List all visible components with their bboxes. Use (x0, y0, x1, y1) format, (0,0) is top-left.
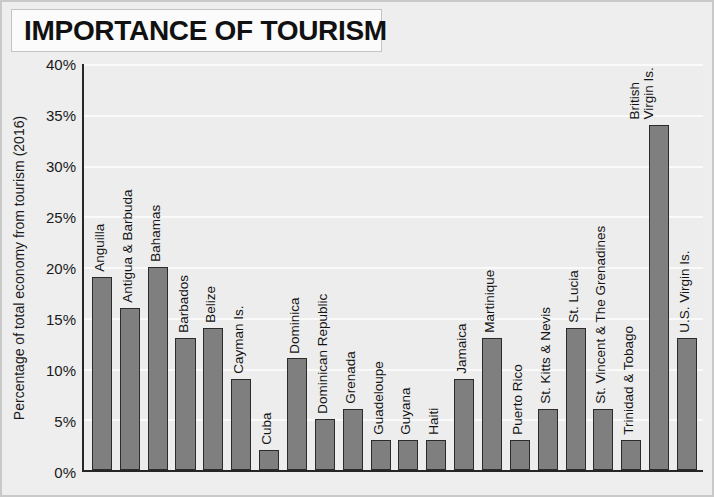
y-axis-tick-25: 25% (46, 209, 76, 226)
bar-label: Guyana (400, 387, 414, 434)
bar[interactable]: U.S. Virgin Is. (677, 338, 697, 470)
bar-label: Jamaica (455, 323, 469, 373)
bar[interactable]: Dominica (287, 358, 307, 470)
y-axis-tick-30: 30% (46, 158, 76, 175)
page-title: IMPORTANCE OF TOURISM (24, 15, 387, 47)
bar-label: Haiti (428, 408, 442, 435)
plot-area: AnguillaAntigua & BarbudaBahamasBarbados… (82, 64, 703, 472)
bar[interactable]: St. Vincent & The Grenadines (593, 409, 613, 470)
bar-label: Martinique (483, 270, 497, 333)
bar[interactable]: Bahamas (148, 267, 168, 470)
bar-label: St. Kitts & Nevis (539, 307, 553, 404)
bar-label: Dominican Republic (316, 294, 330, 414)
chart-page: IMPORTANCE OF TOURISM Percentage of tota… (0, 0, 714, 497)
y-axis-title: Percentage of total economy from tourism… (8, 64, 30, 472)
bar-label: Bahamas (149, 205, 163, 262)
bar-label: Cayman Is. (233, 305, 247, 373)
y-axis-tick-10: 10% (46, 362, 76, 379)
bar[interactable]: Martinique (482, 338, 502, 470)
bar-label: U.S. Virgin Is. (678, 251, 692, 333)
bar[interactable]: Jamaica (454, 379, 474, 470)
bar[interactable]: Grenada (343, 409, 363, 470)
y-axis-tick-labels: 0%5%10%15%20%25%30%35%40% (30, 64, 80, 472)
bar-slot: Trinidad & Tobago (617, 64, 645, 470)
chart-title-box: IMPORTANCE OF TOURISM (11, 9, 382, 52)
bar[interactable]: Guyana (398, 440, 418, 470)
bar[interactable]: Antigua & Barbuda (120, 308, 140, 470)
bar[interactable]: Anguilla (92, 277, 112, 470)
bar-label: St. Lucia (567, 270, 581, 323)
bar-slot: U.S. Virgin Is. (673, 64, 701, 470)
bar-slot: Antigua & Barbuda (116, 64, 144, 470)
bar-slot: Martinique (478, 64, 506, 470)
y-axis-tick-35: 35% (46, 107, 76, 124)
bar-slot: St. Vincent & The Grenadines (589, 64, 617, 470)
bar[interactable]: Belize (203, 328, 223, 470)
bar[interactable]: Barbados (175, 338, 195, 470)
bar-slot: Belize (199, 64, 227, 470)
bar-series: AnguillaAntigua & BarbudaBahamasBarbados… (84, 64, 703, 470)
bar-label: Dominica (288, 297, 302, 353)
bar-slot: Anguilla (88, 64, 116, 470)
bar-label: Barbados (177, 275, 191, 333)
bar-label: Trinidad & Tobago (623, 326, 637, 435)
bar-label: St. Vincent & The Grenadines (595, 226, 609, 404)
bar-slot: Dominica (283, 64, 311, 470)
bar-label: Puerto Rico (511, 364, 525, 435)
bar[interactable]: British Virgin Is. (649, 125, 669, 470)
bar-label: Belize (205, 286, 219, 323)
bar-slot: Guadeloupe (367, 64, 395, 470)
bar-slot: Cuba (255, 64, 283, 470)
bar-slot: Haiti (422, 64, 450, 470)
y-axis-title-text: Percentage of total economy from tourism… (11, 116, 27, 420)
bar-label: Grenada (344, 352, 358, 405)
y-axis-tick-40: 40% (46, 56, 76, 73)
bar[interactable]: St. Lucia (566, 328, 586, 470)
bar-slot: St. Lucia (562, 64, 590, 470)
bar[interactable]: Trinidad & Tobago (621, 440, 641, 470)
bar[interactable]: Puerto Rico (510, 440, 530, 470)
bar[interactable]: Dominican Republic (315, 419, 335, 470)
bar-label: Cuba (260, 412, 274, 444)
bar-label: Guadeloupe (372, 361, 386, 435)
bar-slot: Jamaica (450, 64, 478, 470)
bar-slot: Barbados (172, 64, 200, 470)
bar-slot: British Virgin Is. (645, 64, 673, 470)
bar-label: Anguilla (93, 224, 107, 272)
y-axis-tick-20: 20% (46, 260, 76, 277)
bar-slot: Puerto Rico (506, 64, 534, 470)
y-axis-tick-15: 15% (46, 311, 76, 328)
bar[interactable]: Cuba (259, 450, 279, 470)
bar[interactable]: Haiti (426, 440, 446, 470)
bar-label: Antigua & Barbuda (121, 189, 135, 302)
y-axis-tick-5: 5% (54, 413, 76, 430)
bar[interactable]: Cayman Is. (231, 379, 251, 470)
bar[interactable]: St. Kitts & Nevis (538, 409, 558, 470)
bar-slot: Bahamas (144, 64, 172, 470)
bar-slot: St. Kitts & Nevis (534, 64, 562, 470)
bar-slot: Guyana (394, 64, 422, 470)
bar-slot: Dominican Republic (311, 64, 339, 470)
bar[interactable]: Guadeloupe (371, 440, 391, 470)
y-axis-tick-0: 0% (54, 464, 76, 481)
bar-slot: Cayman Is. (227, 64, 255, 470)
bar-slot: Grenada (339, 64, 367, 470)
